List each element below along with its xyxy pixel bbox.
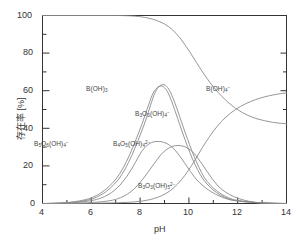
species-label-borate-ion: B(OH)4− bbox=[206, 85, 230, 93]
curve-triborate-dianion bbox=[43, 146, 287, 204]
boron-speciation-chart: 100 80 60 40 20 0 4 6 8 10 12 14 pH 存在率 … bbox=[0, 0, 301, 246]
y-tick-label-100: 100 bbox=[17, 10, 32, 20]
species-label-boric-acid: B(OH)3 bbox=[86, 85, 108, 93]
x-tick-label-12: 12 bbox=[232, 207, 242, 217]
species-label-tetraborate-dianion: B4O5(OH)42− bbox=[113, 140, 150, 148]
x-axis-title: pH bbox=[154, 224, 166, 234]
x-tick-label-4: 4 bbox=[39, 207, 44, 217]
species-label-triborate-monoanion: B3O3(OH)4− bbox=[135, 110, 170, 118]
curve-boric-acid bbox=[43, 16, 287, 124]
x-tick-label-14: 14 bbox=[281, 207, 291, 217]
x-tick-label-8: 8 bbox=[137, 207, 142, 217]
x-tick-label-10: 10 bbox=[183, 207, 193, 217]
y-tick-label-0: 0 bbox=[30, 198, 35, 208]
y-axis-title: 存在率 [%] bbox=[14, 97, 27, 140]
species-label-pentaborate-monoanion: B5O6(OH)4− bbox=[34, 140, 69, 148]
species-label-triborate-dianion: B3O3(OH)52− bbox=[138, 182, 175, 190]
x-tick-label-6: 6 bbox=[88, 207, 93, 217]
y-tick-label-80: 80 bbox=[23, 47, 33, 57]
chart-canvas bbox=[0, 0, 301, 246]
y-tick-label-20: 20 bbox=[23, 160, 33, 170]
y-tick-label-60: 60 bbox=[23, 85, 33, 95]
